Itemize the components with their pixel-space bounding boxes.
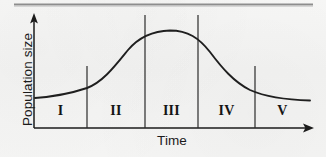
phase-label-v: V (255, 103, 310, 119)
population-size-time-figure: Population size Time I II III IV V (0, 0, 326, 157)
phase-label-i: I (34, 103, 87, 119)
x-axis-label: Time (34, 133, 310, 148)
population-size-curve (35, 31, 310, 101)
phase-label-iv: IV (198, 103, 255, 119)
phase-label-ii: II (87, 103, 145, 119)
phase-label-iii: III (145, 103, 198, 119)
